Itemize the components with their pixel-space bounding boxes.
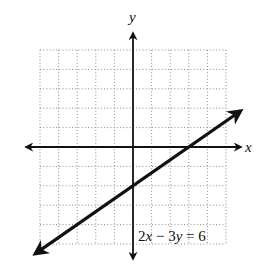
x-axis-label: x xyxy=(244,139,252,155)
y-axis-label: y xyxy=(127,9,136,25)
equation-label: 2x − 3y = 6 xyxy=(138,228,206,244)
coordinate-graph: y x 2x − 3y = 6 xyxy=(0,0,263,273)
